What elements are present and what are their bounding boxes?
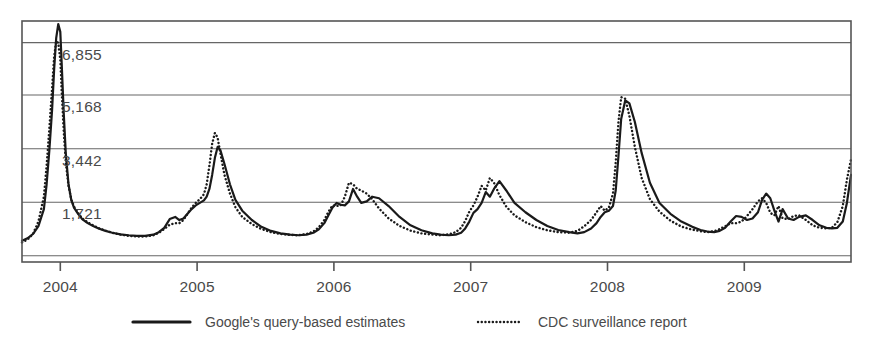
y-tick-label: 6,855 — [62, 47, 102, 63]
x-axis-ticks — [60, 262, 744, 271]
x-tick-label: 2004 — [43, 279, 78, 295]
series-line-1 — [22, 24, 851, 241]
y-tick-label: 5,168 — [62, 99, 102, 115]
x-tick-label: 2009 — [727, 279, 762, 295]
data-series — [22, 24, 851, 242]
x-tick-label: 2008 — [590, 279, 625, 295]
gridlines — [22, 43, 851, 256]
chart-plot-area — [0, 0, 872, 355]
x-tick-label: 2006 — [316, 279, 351, 295]
y-tick-label: 1,721 — [62, 206, 102, 222]
x-tick-label: 2007 — [453, 279, 488, 295]
x-tick-label: 2005 — [179, 279, 214, 295]
y-tick-label: 3,442 — [62, 153, 102, 169]
legend-label-1: Google's query-based estimates — [205, 315, 405, 329]
influenza-trends-chart: 6,8555,1683,4421,721 2004200520062007200… — [0, 0, 872, 355]
series-line-2 — [22, 41, 851, 242]
legend-label-2: CDC surveillance report — [538, 315, 687, 329]
